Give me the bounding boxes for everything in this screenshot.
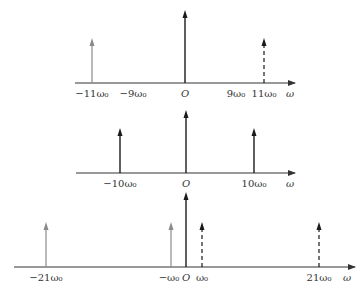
tick-label: ω₀ xyxy=(196,272,208,283)
axis-label: ω xyxy=(286,178,294,189)
origin-label: O xyxy=(181,88,189,99)
arrow-up-icon xyxy=(184,110,189,118)
arrow-up-icon xyxy=(169,222,174,230)
tick-label: 21ω₀ xyxy=(307,272,332,283)
tick-label: 10ω₀ xyxy=(242,178,267,189)
axis-label: ω xyxy=(343,272,351,283)
arrow-up-icon xyxy=(262,38,267,46)
axis-label: ω xyxy=(286,88,294,99)
tick-label: 9ω₀ xyxy=(227,88,246,99)
impulse-stem xyxy=(184,192,189,267)
arrow-up-icon xyxy=(118,128,123,136)
impulse-stem xyxy=(44,222,49,267)
tick-label: −9ω₀ xyxy=(120,88,147,99)
bottom-spectrum: −21ω₀−ω₀Oω₀21ω₀ω xyxy=(14,192,355,283)
tick-label: −21ω₀ xyxy=(29,272,62,283)
impulse-stem xyxy=(183,10,188,83)
impulse-stem xyxy=(262,38,267,83)
tick-label: −ω₀ xyxy=(159,272,180,283)
impulse-stem xyxy=(200,222,205,267)
origin-label: O xyxy=(182,272,190,283)
arrow-up-icon xyxy=(200,222,205,230)
impulse-stem xyxy=(252,128,257,173)
spectrum-diagram: −11ω₀−9ω₀O9ω₀11ω₀ω−10ω₀O10ω₀ω−21ω₀−ω₀Oω₀… xyxy=(0,0,360,289)
middle-spectrum: −10ω₀O10ω₀ω xyxy=(76,110,295,189)
arrow-up-icon xyxy=(90,38,95,46)
impulse-stem xyxy=(184,110,189,173)
origin-label: O xyxy=(182,178,190,189)
arrow-up-icon xyxy=(317,222,322,230)
arrow-up-icon xyxy=(184,192,189,200)
impulse-stem xyxy=(169,222,174,267)
arrow-up-icon xyxy=(183,10,188,18)
tick-label: −11ω₀ xyxy=(75,88,108,99)
tick-label: −10ω₀ xyxy=(103,178,136,189)
impulse-stem xyxy=(317,222,322,267)
arrow-up-icon xyxy=(252,128,257,136)
impulse-stem xyxy=(118,128,123,173)
tick-label: 11ω₀ xyxy=(252,88,277,99)
arrow-up-icon xyxy=(44,222,49,230)
top-spectrum: −11ω₀−9ω₀O9ω₀11ω₀ω xyxy=(75,10,295,99)
impulse-stem xyxy=(90,38,95,83)
